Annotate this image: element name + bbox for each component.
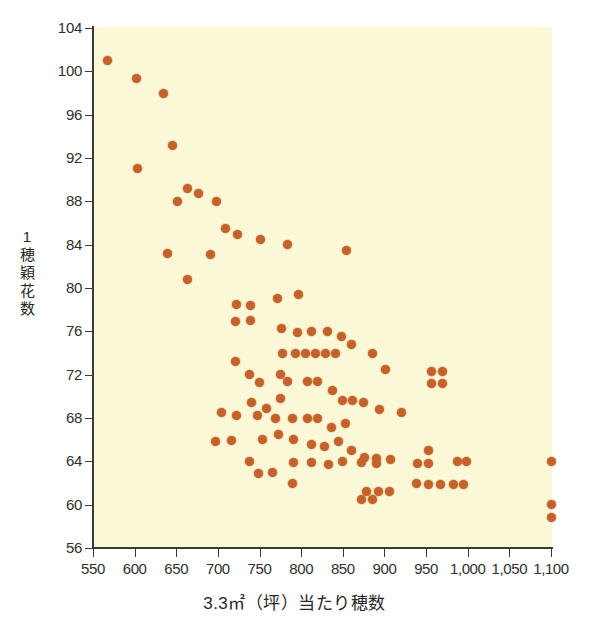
- y-axis-tick-label-text: 80: [46, 280, 82, 295]
- data-point: [183, 184, 192, 193]
- x-axis-tick: [343, 549, 344, 557]
- data-point: [255, 378, 264, 387]
- data-point: [424, 446, 433, 455]
- data-point: [341, 419, 350, 428]
- y-axis-title: 1穂穎花数: [17, 228, 37, 318]
- y-axis-tick: [85, 158, 94, 159]
- scatter-plot-figure: 5660646872768084889296100104 55060065070…: [0, 0, 589, 631]
- y-axis-tick-label-text: 60: [46, 497, 82, 512]
- data-point: [357, 458, 366, 467]
- y-axis-title-char: 数: [17, 300, 37, 318]
- y-axis-tick-label-text: 104: [46, 20, 82, 35]
- data-point: [217, 408, 226, 417]
- data-point: [231, 357, 240, 366]
- x-axis-tick: [93, 549, 94, 557]
- data-point: [159, 89, 168, 98]
- data-point: [301, 349, 310, 358]
- data-point: [288, 479, 297, 488]
- data-point: [277, 324, 286, 333]
- data-point: [438, 379, 447, 388]
- x-axis-tick: [135, 549, 136, 557]
- data-point: [424, 459, 433, 468]
- y-axis-tick-label-text: 68: [46, 410, 82, 425]
- data-point: [327, 423, 336, 432]
- x-axis-tick: [301, 549, 302, 557]
- data-point: [262, 404, 271, 413]
- data-point: [397, 408, 406, 417]
- y-axis-tick-label: 56: [40, 540, 82, 555]
- y-axis-tick: [85, 71, 94, 72]
- y-axis-tick-label: 88: [40, 193, 82, 208]
- y-axis-tick-label-text: 56: [46, 540, 82, 555]
- data-point: [424, 480, 433, 489]
- y-axis-tick: [85, 201, 94, 202]
- data-point: [293, 328, 302, 337]
- data-point: [453, 457, 462, 466]
- data-point: [375, 405, 384, 414]
- x-axis-tick: [384, 549, 385, 557]
- x-axis-line: [92, 547, 553, 549]
- data-point: [291, 349, 300, 358]
- y-axis-tick-label: 68: [40, 410, 82, 425]
- y-axis-tick-label-text: 100: [46, 63, 82, 78]
- data-point: [313, 377, 322, 386]
- y-axis-tick-label: 92: [40, 150, 82, 165]
- y-axis-tick: [85, 245, 94, 246]
- y-axis-title-char: 穂: [17, 246, 37, 264]
- data-point: [271, 414, 280, 423]
- data-point: [276, 394, 285, 403]
- data-point: [320, 442, 329, 451]
- data-point: [307, 440, 316, 449]
- data-point: [206, 250, 215, 259]
- y-axis-title-char: 穎: [17, 264, 37, 282]
- data-point: [459, 480, 468, 489]
- data-point: [381, 365, 390, 374]
- y-axis-tick-label-text: 72: [46, 367, 82, 382]
- data-point: [246, 301, 255, 310]
- y-axis-tick: [85, 115, 94, 116]
- x-axis-tick-label: 1,100: [521, 561, 581, 577]
- y-axis-tick-label: 96: [40, 107, 82, 122]
- data-point: [183, 275, 192, 284]
- y-axis-tick-label-text: 76: [46, 323, 82, 338]
- data-point: [313, 414, 322, 423]
- data-point: [221, 224, 230, 233]
- data-point: [247, 398, 256, 407]
- data-point: [331, 349, 340, 358]
- data-point: [547, 513, 556, 522]
- data-point: [168, 141, 177, 150]
- data-point: [368, 349, 377, 358]
- data-point: [303, 377, 312, 386]
- y-axis-tick: [85, 505, 94, 506]
- data-point: [274, 430, 283, 439]
- data-point: [462, 457, 471, 466]
- data-point: [547, 500, 556, 509]
- y-axis-tick-label: 64: [40, 453, 82, 468]
- y-axis-title-char: 1: [17, 228, 37, 246]
- x-axis-tick: [426, 549, 427, 557]
- y-axis-tick-label-text: 96: [46, 107, 82, 122]
- y-axis-tick-label-text: 88: [46, 193, 82, 208]
- data-point: [547, 457, 556, 466]
- data-point: [233, 230, 242, 239]
- y-axis-tick-label: 104: [40, 20, 82, 35]
- y-axis-tick-label-text: 92: [46, 150, 82, 165]
- data-point: [227, 436, 236, 445]
- data-point: [256, 235, 265, 244]
- plot-area: [93, 27, 552, 548]
- data-point: [212, 197, 221, 206]
- y-axis-tick-label: 76: [40, 323, 82, 338]
- data-point: [412, 479, 421, 488]
- x-axis-tick: [218, 549, 219, 557]
- data-point: [303, 414, 312, 423]
- data-point: [386, 455, 395, 464]
- x-axis-tick: [468, 549, 469, 557]
- y-axis-tick-label-text: 84: [46, 237, 82, 252]
- y-axis-tick: [85, 331, 94, 332]
- x-axis-tick: [260, 549, 261, 557]
- y-axis-tick: [85, 418, 94, 419]
- y-axis-title-char: 花: [17, 282, 37, 300]
- data-point: [246, 316, 255, 325]
- x-axis-tick: [551, 549, 552, 557]
- y-axis-tick-label: 80: [40, 280, 82, 295]
